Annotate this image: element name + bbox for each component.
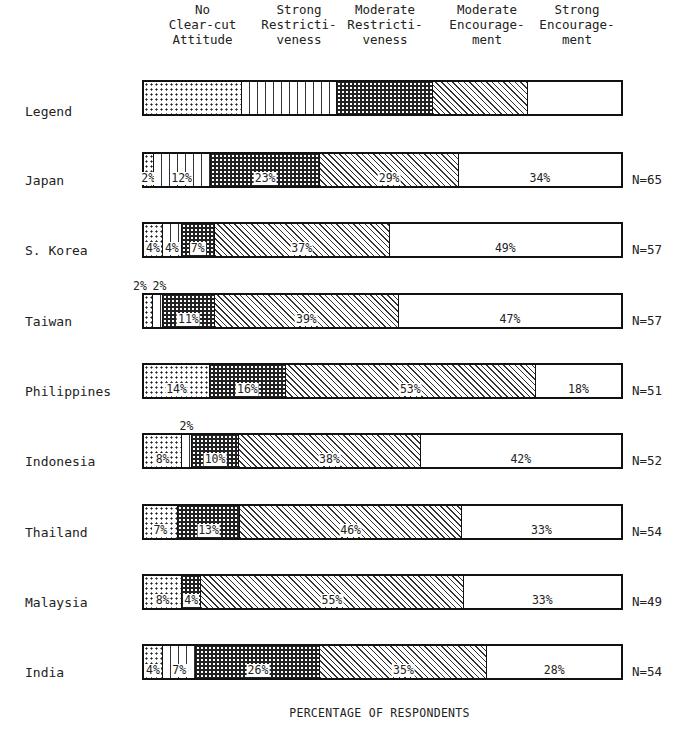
country-bar: 2%12%23%29%34% xyxy=(142,152,623,188)
legend-swatch-moderate-encouragement xyxy=(433,82,528,114)
sample-size: N=49 xyxy=(632,594,662,609)
segment-value: 14% xyxy=(165,383,188,396)
bar-segment-none: 8% xyxy=(144,435,182,467)
bar-segment-none: 8% xyxy=(144,576,182,608)
bar-segment-sr: 4% xyxy=(163,224,182,256)
legend-swatch-strong-encouragement xyxy=(528,82,621,114)
sample-size: N=57 xyxy=(632,313,662,328)
bar-segment-se: 34% xyxy=(459,154,621,186)
country-bar: 4%7%26%35%28% xyxy=(142,644,623,680)
legend-swatch-no-clear-cut xyxy=(144,82,242,114)
legend-swatch-moderate-restrictiveness xyxy=(337,82,432,114)
legend-header-2: Moderate Restricti- veness xyxy=(330,2,440,47)
segment-value: 26% xyxy=(247,664,270,677)
bar-segment-sr: 12% xyxy=(154,154,211,186)
segment-value: 2% xyxy=(152,280,168,293)
segment-value: 49% xyxy=(494,242,517,255)
sample-size: N=65 xyxy=(632,172,662,187)
bar-segment-me: 39% xyxy=(215,295,399,327)
segment-value: 11% xyxy=(177,313,200,326)
bar-segment-mr: 10% xyxy=(192,435,240,467)
country-label: Japan xyxy=(25,173,64,188)
country-bar: 14%16%53%18% xyxy=(142,363,623,399)
segment-value: 4% xyxy=(145,242,161,255)
segment-value: 7% xyxy=(152,524,168,537)
sample-size: N=54 xyxy=(632,524,662,539)
bar-segment-none: 2% xyxy=(144,295,153,327)
segment-value: 37% xyxy=(290,242,313,255)
x-axis-label: PERCENTAGE OF RESPONDENTS xyxy=(0,706,699,720)
segment-value: 35% xyxy=(392,664,415,677)
segment-value: 46% xyxy=(339,524,362,537)
segment-value: 12% xyxy=(170,172,193,185)
bar-segment-sr: 2% xyxy=(153,295,162,327)
sample-size: N=51 xyxy=(632,383,662,398)
legend-header-0: No Clear-cut Attitude xyxy=(145,2,260,47)
bar-segment-me: 55% xyxy=(201,576,463,608)
country-label: Thailand xyxy=(25,525,88,540)
country-bar: 4%4%7%37%49% xyxy=(142,222,623,258)
segment-value: 33% xyxy=(531,594,554,607)
segment-value: 39% xyxy=(295,313,318,326)
bar-segment-none: 14% xyxy=(144,365,210,397)
bar-segment-none: 4% xyxy=(144,646,163,678)
segment-value: 2% xyxy=(132,280,148,293)
bar-segment-sr: 7% xyxy=(163,646,196,678)
bar-segment-me: 35% xyxy=(320,646,487,678)
bar-segment-mr: 16% xyxy=(210,365,286,397)
segment-value: 34% xyxy=(528,172,551,185)
bar-segment-se: 33% xyxy=(464,576,621,608)
segment-value: 2% xyxy=(178,420,194,433)
country-bar: 2%2%11%39%47% xyxy=(142,293,623,329)
sample-size: N=57 xyxy=(632,242,662,257)
segment-value: 7% xyxy=(171,664,187,677)
segment-value: 28% xyxy=(543,664,566,677)
legend-header-4: Strong Encourage- ment xyxy=(522,2,632,47)
bar-segment-mr: 4% xyxy=(182,576,201,608)
bar-segment-se: 28% xyxy=(487,646,621,678)
legend-label: Legend xyxy=(25,104,72,119)
bar-segment-mr: 26% xyxy=(196,646,320,678)
country-label: Malaysia xyxy=(25,595,88,610)
bar-segment-me: 53% xyxy=(286,365,536,397)
segment-value: 42% xyxy=(509,453,532,466)
segment-value: 33% xyxy=(530,524,553,537)
bar-segment-me: 29% xyxy=(320,154,458,186)
segment-value: 29% xyxy=(378,172,401,185)
segment-value: 16% xyxy=(236,383,259,396)
bar-segment-se: 49% xyxy=(390,224,621,256)
bar-segment-sr: 2% xyxy=(182,435,192,467)
bar-segment-me: 46% xyxy=(240,506,462,538)
segment-value: 23% xyxy=(254,172,277,185)
segment-value: 7% xyxy=(190,242,206,255)
segment-value: 47% xyxy=(499,313,522,326)
segment-value: 18% xyxy=(567,383,590,396)
country-bar: 8%2%10%38%42% xyxy=(142,433,623,469)
country-label: S. Korea xyxy=(25,243,88,258)
segment-value: 8% xyxy=(155,594,171,607)
bar-segment-none: 2% xyxy=(144,154,154,186)
bar-segment-none: 4% xyxy=(144,224,163,256)
segment-value: 4% xyxy=(183,594,199,607)
bar-segment-se: 18% xyxy=(536,365,621,397)
bar-segment-mr: 7% xyxy=(182,224,215,256)
segment-value: 10% xyxy=(204,453,227,466)
bar-segment-se: 33% xyxy=(462,506,621,538)
bar-segment-se: 47% xyxy=(399,295,621,327)
country-label: Taiwan xyxy=(25,314,72,329)
country-bar: 7%13%46%33% xyxy=(142,504,623,540)
segment-value: 13% xyxy=(197,524,220,537)
bar-segment-me: 38% xyxy=(239,435,420,467)
bar-segment-none: 7% xyxy=(144,506,178,538)
bar-segment-se: 42% xyxy=(421,435,621,467)
segment-value: 55% xyxy=(321,594,344,607)
country-label: India xyxy=(25,665,64,680)
bar-segment-mr: 23% xyxy=(211,154,321,186)
country-bar: 8%4%55%33% xyxy=(142,574,623,610)
legend-swatch-strong-restrictiveness xyxy=(242,82,337,114)
segment-value: 4% xyxy=(145,664,161,677)
country-label: Indonesia xyxy=(25,454,95,469)
segment-value: 38% xyxy=(318,453,341,466)
bar-segment-mr: 13% xyxy=(178,506,241,538)
segment-value: 4% xyxy=(164,242,180,255)
